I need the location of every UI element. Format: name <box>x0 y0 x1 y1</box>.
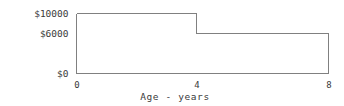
x-tick-label-4: 4 <box>194 80 199 90</box>
y-tick-label-0: $0 <box>57 68 69 79</box>
step-series-outline <box>77 14 329 74</box>
chart-screenshot: $10000 $6000 $0 0 4 8 Age - years <box>0 0 344 106</box>
x-tick-label-8: 8 <box>326 80 331 90</box>
y-tick-label-10000: $10000 <box>34 8 69 19</box>
x-axis-title: Age - years <box>140 91 210 102</box>
x-tick-label-0: 0 <box>74 80 79 90</box>
step-chart: $10000 $6000 $0 0 4 8 Age - years <box>0 0 344 106</box>
y-tick-label-6000: $6000 <box>40 28 69 39</box>
